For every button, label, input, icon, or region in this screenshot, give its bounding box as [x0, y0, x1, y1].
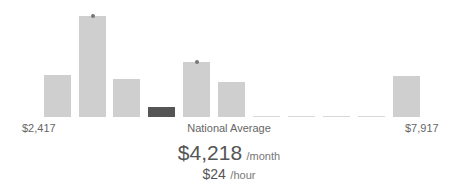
- range-max-label: $7,917: [405, 122, 439, 134]
- histogram-bar: [113, 79, 140, 117]
- histogram-bar: [323, 116, 350, 117]
- histogram-bar: [253, 116, 280, 117]
- histogram-bar: [288, 116, 315, 117]
- monthly-salary: $4,218 /month: [0, 141, 458, 165]
- hourly-wage: $24 /hour: [0, 165, 458, 183]
- hourly-unit: /hour: [230, 169, 255, 181]
- histogram-bar: [183, 62, 210, 117]
- monthly-unit: /month: [247, 150, 281, 162]
- bar-marker-icon: [91, 14, 95, 18]
- histogram-bar-highlighted: [148, 107, 175, 117]
- hourly-value: $24: [203, 166, 226, 182]
- monthly-value: $4,218: [178, 141, 242, 164]
- bar-marker-icon: [195, 60, 199, 64]
- salary-histogram: [0, 0, 458, 120]
- histogram-bar: [358, 116, 385, 117]
- histogram-bar: [393, 76, 420, 117]
- histogram-bar: [79, 16, 106, 117]
- national-average-label: National Average: [0, 122, 458, 134]
- histogram-bar: [218, 82, 245, 117]
- histogram-bar: [44, 75, 71, 117]
